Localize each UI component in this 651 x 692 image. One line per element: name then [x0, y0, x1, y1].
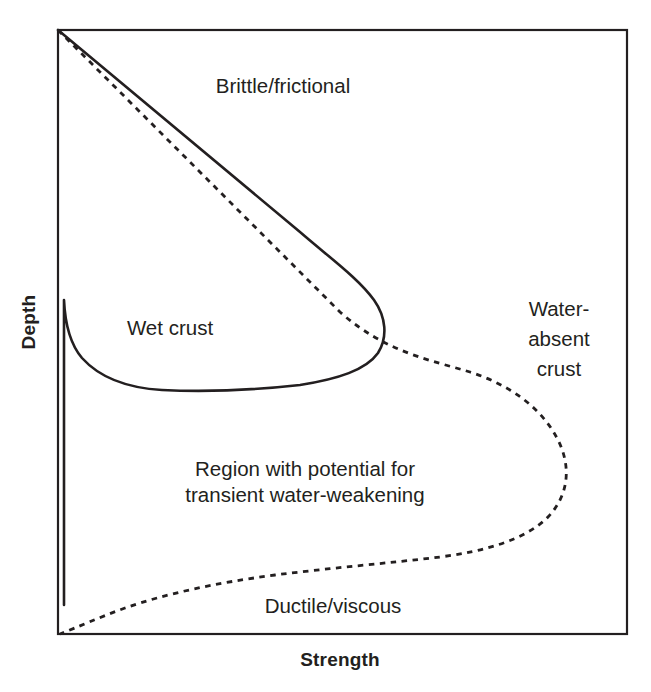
label-water-absent-line1: Water- [529, 297, 590, 320]
label-wet-crust: Wet crust [127, 316, 213, 339]
label-ductile-viscous: Ductile/viscous [265, 594, 402, 617]
label-brittle-frictional: Brittle/frictional [216, 74, 350, 97]
label-water-absent-line2: absent [528, 327, 590, 350]
label-transient-region-line2: transient water-weakening [185, 483, 424, 506]
strength-depth-figure: Brittle/frictional Wet crust Water- abse… [0, 0, 651, 692]
x-axis-label: Strength [300, 649, 380, 670]
wet-crust-strength-curve [58, 30, 384, 605]
label-transient-region-line1: Region with potential for [195, 457, 415, 480]
label-water-absent-line3: crust [537, 357, 582, 380]
y-axis-label: Depth [18, 295, 39, 350]
chart-canvas: Brittle/frictional Wet crust Water- abse… [0, 0, 651, 692]
